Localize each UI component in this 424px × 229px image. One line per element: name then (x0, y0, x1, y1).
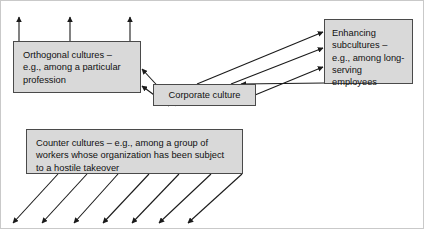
arrow-counter-down-3 (74, 174, 118, 223)
arrow-counter-down-1 (13, 174, 58, 223)
node-corporate-culture-label: Corporate culture (169, 89, 241, 101)
node-enhancing-subcultures-label: Enhancing subcultures – e.g., among long… (332, 27, 406, 88)
arrow-counter-down-4 (103, 174, 149, 223)
node-corporate-culture: Corporate culture (153, 84, 256, 106)
arrow-counter-down-2 (42, 174, 87, 223)
node-counter-cultures-label: Counter cultures – e.g., among a group o… (36, 137, 234, 174)
arrow-corporate-to-enhancing-1 (197, 32, 323, 84)
diagram-canvas: Orthogonal cultures – e.g., among a part… (0, 0, 424, 229)
node-orthogonal-cultures: Orthogonal cultures – e.g., among a part… (13, 41, 141, 93)
arrow-corporate-to-enhancing-2 (231, 48, 323, 84)
arrow-counter-down-7 (188, 174, 242, 223)
node-counter-cultures: Counter cultures – e.g., among a group o… (26, 129, 243, 174)
node-enhancing-subcultures: Enhancing subcultures – e.g., among long… (324, 19, 413, 84)
arrow-counter-down-5 (132, 174, 179, 223)
node-orthogonal-cultures-label: Orthogonal cultures – e.g., among a part… (23, 49, 132, 86)
arrow-counter-down-6 (159, 174, 211, 223)
arrow-corporate-to-enhancing-3 (255, 67, 323, 95)
